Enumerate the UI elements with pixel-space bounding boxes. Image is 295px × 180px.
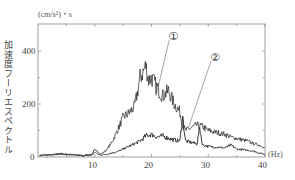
- svg-text:②: ②: [210, 51, 220, 64]
- series-1-line: [40, 61, 265, 156]
- svg-text:①: ①: [168, 30, 178, 43]
- plot-area: ①②: [0, 0, 295, 180]
